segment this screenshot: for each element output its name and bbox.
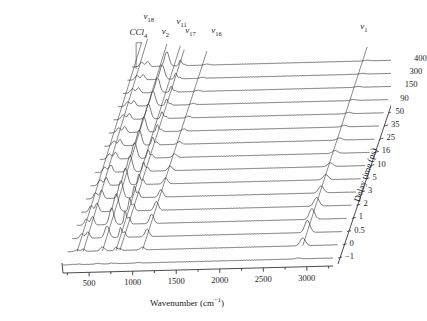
- delay-axis-tick: [343, 244, 347, 245]
- peak-leader-line: [116, 46, 180, 251]
- x-tick-label: 3000: [295, 273, 319, 283]
- spectrum-trace: [63, 258, 333, 265]
- peak-leader-line: [77, 43, 141, 252]
- delay-time-label: 10: [377, 159, 386, 169]
- delay-time-label: 150: [405, 79, 418, 89]
- spectrum-trace: [114, 104, 384, 120]
- spectrum-trace: [68, 238, 338, 252]
- delay-axis-tick: [352, 217, 356, 218]
- peak-leader-lines: [77, 39, 367, 252]
- delay-time-label: 35: [391, 119, 400, 129]
- spectrum-trace: [104, 130, 374, 146]
- peak-label-nu16: ν16: [211, 26, 222, 37]
- delay-axis-tick: [338, 257, 342, 258]
- spectrum-trace: [118, 91, 388, 106]
- delay-time-label: −1: [345, 251, 354, 261]
- delay-time-label: 2: [363, 198, 367, 208]
- peak-label-nu2: ν2: [162, 27, 169, 38]
- spectrum-trace: [72, 221, 342, 239]
- delay-time-label: 400: [414, 53, 427, 63]
- x-axis-title: Wavenumber (cm−1): [150, 296, 224, 308]
- delay-time-label: 16: [382, 145, 391, 155]
- peak-label-ccl4: CCl4: [129, 28, 147, 39]
- spectrum-trace: [100, 143, 370, 160]
- spectrum-trace: [109, 117, 379, 133]
- spectrum-trace: [91, 168, 361, 186]
- peak-label-nu18: ν18: [143, 12, 154, 23]
- spectrum-trace: [123, 78, 391, 93]
- delay-time-label: 0: [350, 238, 354, 248]
- peak-leader-line: [83, 39, 147, 252]
- peak-label-nu1: ν1: [360, 22, 367, 33]
- delay-time-label: 5: [373, 172, 377, 182]
- peak-leader-line: [102, 44, 166, 251]
- delay-time-label: 1: [359, 211, 363, 221]
- spectrum-trace: [86, 181, 356, 199]
- delay-axis-tick: [347, 231, 351, 232]
- x-tick-label: 500: [77, 278, 101, 288]
- x-tick-label: 1000: [121, 277, 145, 287]
- delay-axis-tick: [356, 204, 360, 205]
- x-tick-label: 1500: [164, 276, 188, 286]
- delay-time-label: 90: [400, 93, 409, 103]
- x-tick-label: 2500: [251, 274, 275, 284]
- x-axis-left-stub: [62, 263, 63, 273]
- spectrum-trace: [132, 52, 391, 67]
- peak-label-nu17: ν17: [185, 26, 196, 37]
- peak-leader-line: [303, 47, 367, 246]
- spectrum-trace: [127, 65, 391, 80]
- delay-time-label: 300: [409, 66, 422, 76]
- spectra-traces: [63, 52, 391, 265]
- spectrum-trace: [77, 208, 347, 226]
- delay-time-label: 25: [386, 132, 395, 142]
- spectrum-trace: [95, 155, 365, 172]
- delay-time-label: 50: [396, 106, 405, 116]
- x-tick-label: 2000: [208, 275, 232, 285]
- delay-time-label: 0.5: [354, 225, 365, 235]
- delay-time-label: 3: [368, 185, 372, 195]
